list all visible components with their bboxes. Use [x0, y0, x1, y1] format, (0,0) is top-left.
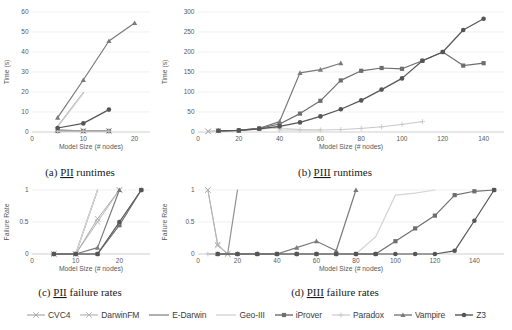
caption-problem: PIII — [307, 286, 324, 298]
y-axis-ticks: 050100150200250300 — [184, 8, 195, 135]
data-point-z3 — [461, 28, 466, 33]
legend-item-paradox[interactable]: Paradox — [331, 310, 384, 320]
x-tick-label: 20 — [235, 135, 243, 142]
x-tick-label: 40 — [273, 257, 281, 264]
y-axis-title: Time (s) — [3, 60, 11, 85]
data-point-z3 — [314, 252, 319, 257]
y-tick-label: 300 — [184, 8, 195, 15]
data-point-z3 — [117, 220, 122, 225]
data-point-iprover — [393, 239, 397, 243]
y-tick-label: 0 — [191, 250, 195, 257]
x-tick-label: 20 — [234, 257, 242, 264]
data-point-iprover — [472, 189, 476, 193]
chart-caption: (c) PII failure rates — [38, 286, 121, 299]
legend-item-iprover[interactable]: iProver — [274, 310, 322, 320]
caption-problem: PII — [53, 286, 67, 298]
gridlines — [198, 12, 504, 132]
legend-swatch-z3 — [454, 310, 474, 320]
legend-marker — [462, 313, 467, 318]
legend-item-cvc4[interactable]: CVC4 — [26, 310, 70, 320]
legend-marker — [338, 313, 343, 318]
data-point-z3 — [492, 188, 497, 193]
legend-swatch-geo-iii — [215, 310, 237, 320]
legend-item-vampire[interactable]: Vampire — [393, 310, 445, 320]
y-tick-label: 200 — [184, 48, 195, 55]
x-tick-label: 120 — [429, 257, 440, 264]
legend-label: Vampire — [415, 310, 445, 320]
data-point-z3 — [373, 252, 378, 257]
data-point-z3 — [472, 218, 477, 223]
y-tick-label: 100 — [184, 88, 195, 95]
data-point-z3 — [139, 188, 144, 193]
data-point-iprover — [298, 112, 302, 116]
y-tick-label: 0.5 — [185, 218, 194, 225]
caption-prefix: (a) — [45, 166, 60, 179]
chart-caption: (b) PIII runtimes — [298, 166, 372, 179]
data-point-z3 — [359, 98, 364, 103]
x-tick-label: 80 — [358, 135, 366, 142]
caption-suffix: runtimes — [74, 166, 115, 178]
legend-item-z3[interactable]: Z3 — [454, 310, 486, 320]
series-line-vampire — [58, 23, 135, 118]
chart-caption: (a) PII runtimes — [45, 166, 115, 179]
caption-suffix: failure rates — [324, 286, 379, 298]
data-point-vampire — [132, 20, 137, 25]
y-tick-label: 0.5 — [19, 218, 28, 225]
y-axis-ticks: 0102030405060 — [21, 8, 29, 135]
y-tick-label: 60 — [21, 8, 29, 15]
data-point-iprover — [461, 64, 465, 68]
legend-label: DarwinFM — [101, 310, 139, 320]
y-tick-label: 0 — [25, 128, 29, 135]
data-point-z3 — [441, 50, 446, 55]
data-point-iprover — [339, 78, 343, 82]
caption-problem: PII — [60, 166, 74, 178]
legend-swatch-cvc4 — [26, 310, 46, 320]
data-point-z3 — [433, 252, 438, 257]
data-point-iprover — [318, 99, 322, 103]
series-markers-vampire — [55, 20, 137, 119]
data-point-z3 — [107, 107, 112, 112]
data-point-iprover — [380, 66, 384, 70]
x-tick-label: 0 — [196, 257, 200, 264]
figure-container: 010203040506001020Time (s)Model Size (# … — [0, 0, 512, 330]
y-tick-label: 0 — [191, 128, 195, 135]
y-axis-ticks: 00.51 — [185, 186, 194, 257]
y-tick-label: 150 — [184, 68, 195, 75]
y-tick-label: 1 — [191, 186, 195, 193]
legend-item-e-darwin[interactable]: E-Darwin — [148, 310, 206, 320]
legend-swatch-darwinfm — [79, 310, 99, 320]
data-point-z3 — [298, 120, 303, 125]
legend-item-darwinfm[interactable]: DarwinFM — [79, 310, 139, 320]
data-point-z3 — [318, 114, 323, 119]
data-point-vampire — [277, 119, 282, 124]
data-point-paradox — [420, 119, 425, 124]
data-point-z3 — [275, 252, 280, 257]
y-tick-label: 20 — [21, 88, 29, 95]
legend-item-geo-iii[interactable]: Geo-III — [215, 310, 264, 320]
data-point-z3 — [73, 252, 78, 257]
legend-marker — [282, 313, 286, 317]
data-point-z3 — [413, 252, 418, 257]
gridlines — [32, 190, 150, 254]
legend-swatch-paradox — [331, 310, 351, 320]
x-axis-ticks: 01020 — [30, 257, 123, 264]
series-line-z3 — [218, 19, 483, 131]
data-point-vampire — [338, 61, 343, 66]
data-point-z3 — [400, 76, 405, 81]
caption-suffix: failure rates — [67, 286, 122, 298]
data-point-paradox — [400, 122, 405, 127]
caption-suffix: runtimes — [331, 166, 372, 178]
data-point-iprover — [453, 193, 457, 197]
x-tick-label: 120 — [437, 135, 448, 142]
x-axis-ticks: 01020 — [30, 135, 138, 142]
series-markers-z3 — [216, 17, 486, 134]
data-point-z3 — [420, 59, 425, 64]
x-tick-label: 60 — [313, 257, 321, 264]
data-point-z3 — [339, 107, 344, 112]
x-tick-label: 140 — [469, 257, 480, 264]
legend-label: CVC4 — [48, 310, 70, 320]
x-axis-title: Model Size (# nodes) — [319, 143, 383, 151]
legend-label: Z3 — [476, 310, 486, 320]
chart-panel-pii-failure-rates: 00.5101020Failure RateModel Size (# node… — [0, 182, 160, 300]
data-point-z3 — [255, 252, 260, 257]
